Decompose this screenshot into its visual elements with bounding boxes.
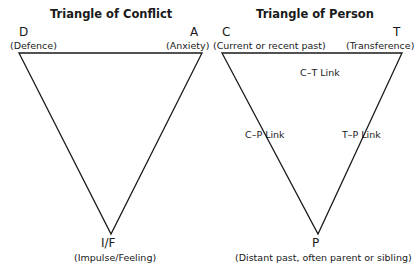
triangle-of-conflict-shape bbox=[19, 53, 202, 234]
person-vertex-t: T bbox=[393, 25, 400, 39]
conflict-vertex-d: D bbox=[19, 25, 28, 39]
conflict-vertex-if: I/F bbox=[101, 236, 115, 250]
person-link-ct: C–T Link bbox=[300, 67, 340, 78]
conflict-vertex-a-desc: (Anxiety) bbox=[166, 40, 209, 51]
conflict-vertex-d-desc: (Defence) bbox=[10, 40, 57, 51]
conflict-title: Triangle of Conflict bbox=[50, 7, 170, 21]
triangle-of-person-shape bbox=[222, 53, 402, 234]
person-vertex-t-desc: (Transference) bbox=[346, 40, 414, 51]
person-link-tp: T–P Link bbox=[342, 129, 381, 140]
person-vertex-p: P bbox=[312, 236, 319, 250]
conflict-vertex-if-desc: (Impulse/Feeling) bbox=[74, 252, 156, 263]
person-vertex-c: C bbox=[222, 25, 230, 39]
person-vertex-c-desc: (Current or recent past) bbox=[213, 40, 326, 51]
person-title: Triangle of Person bbox=[250, 7, 380, 21]
conflict-vertex-a: A bbox=[190, 25, 198, 39]
person-link-cp: C–P Link bbox=[245, 129, 285, 140]
person-vertex-p-desc: (Distant past, often parent or sibling) bbox=[235, 252, 412, 263]
